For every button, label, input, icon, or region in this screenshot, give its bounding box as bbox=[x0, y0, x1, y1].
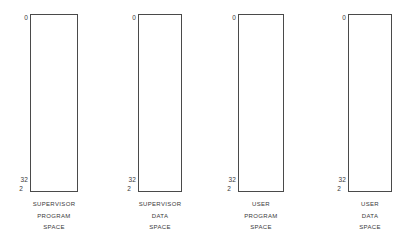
base-3: 2 bbox=[208, 186, 236, 193]
base-4: 2 bbox=[318, 186, 346, 193]
address-space-supervisor-program: 0 32 2 SUPERVISOR PROGRAM SPACE bbox=[0, 0, 106, 242]
caption-line-2c: SPACE bbox=[138, 222, 182, 234]
memory-box-4 bbox=[348, 14, 392, 192]
base-1: 2 bbox=[0, 186, 28, 193]
caption-1: SUPERVISOR PROGRAM SPACE bbox=[30, 199, 78, 234]
caption-line-4a: USER bbox=[348, 199, 392, 211]
caption-line-2b: DATA bbox=[138, 211, 182, 223]
caption-4: USER DATA SPACE bbox=[348, 199, 392, 234]
caption-line-1c: SPACE bbox=[30, 222, 78, 234]
caption-line-3c: SPACE bbox=[238, 222, 284, 234]
caption-line-3a: USER bbox=[238, 199, 284, 211]
exponent-1: 32 bbox=[0, 177, 28, 184]
exponent-3: 32 bbox=[208, 177, 236, 184]
top-address-label-1: 0 bbox=[4, 15, 28, 22]
caption-line-2a: SUPERVISOR bbox=[138, 199, 182, 211]
caption-line-4b: DATA bbox=[348, 211, 392, 223]
base-2: 2 bbox=[108, 186, 136, 193]
address-space-user-program: 0 32 2 USER PROGRAM SPACE bbox=[208, 0, 310, 242]
exponent-2: 32 bbox=[108, 177, 136, 184]
address-space-diagram: 0 32 2 SUPERVISOR PROGRAM SPACE 0 32 2 S… bbox=[0, 0, 406, 242]
bottom-address-label-2: 32 2 bbox=[108, 177, 136, 192]
exponent-4: 32 bbox=[318, 177, 346, 184]
address-space-user-data: 0 32 2 USER DATA SPACE bbox=[310, 0, 406, 242]
caption-line-1a: SUPERVISOR bbox=[30, 199, 78, 211]
caption-3: USER PROGRAM SPACE bbox=[238, 199, 284, 234]
bottom-address-label-3: 32 2 bbox=[208, 177, 236, 192]
memory-box-3 bbox=[238, 14, 284, 192]
bottom-address-label-1: 32 2 bbox=[0, 177, 28, 192]
top-address-label-4: 0 bbox=[322, 15, 346, 22]
memory-box-2 bbox=[138, 14, 182, 192]
top-address-label-2: 0 bbox=[112, 15, 136, 22]
caption-line-3b: PROGRAM bbox=[238, 211, 284, 223]
bottom-address-label-4: 32 2 bbox=[318, 177, 346, 192]
caption-line-1b: PROGRAM bbox=[30, 211, 78, 223]
caption-2: SUPERVISOR DATA SPACE bbox=[138, 199, 182, 234]
memory-box-1 bbox=[30, 14, 78, 192]
caption-line-4c: SPACE bbox=[348, 222, 392, 234]
address-space-supervisor-data: 0 32 2 SUPERVISOR DATA SPACE bbox=[106, 0, 208, 242]
top-address-label-3: 0 bbox=[212, 15, 236, 22]
